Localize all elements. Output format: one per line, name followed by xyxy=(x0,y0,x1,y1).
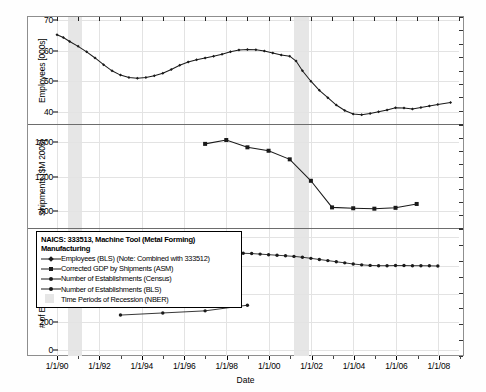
legend-title-line2: Manufacturing xyxy=(41,244,237,253)
legend-entry-2: Number of Establishments (Census) xyxy=(41,274,237,284)
x-tick-label-1/1/06: 1/1/06 xyxy=(385,361,407,371)
y-minor-tick-right-establishments-0 xyxy=(459,229,463,230)
x-tick-mark-1992 xyxy=(99,356,100,360)
legend-marker-dot-icon xyxy=(41,284,61,294)
y-minor-tick-right-employees-5 xyxy=(459,84,463,85)
legend-label-0: Employees (BLS) (Note: Combined with 333… xyxy=(61,254,210,263)
y-minor-tick-right-shipments-7 xyxy=(459,215,463,216)
plot-area-employees: 40506070 xyxy=(57,17,459,124)
top-edge-tick-1996 xyxy=(184,17,185,21)
x-tick-mark-2001 xyxy=(290,356,291,359)
top-edge-tick-2001 xyxy=(290,17,291,21)
y-minor-tick-right-shipments-0 xyxy=(459,125,463,126)
y-minor-tick-right-establishments-1 xyxy=(459,245,463,246)
series-markers-employees-0 xyxy=(56,33,453,116)
legend-label-3: Number of Establishments (BLS) xyxy=(61,285,161,294)
legend-marker-swatch-icon xyxy=(41,294,61,304)
x-tick-mark-1996 xyxy=(184,356,185,360)
top-edge-tick-1997 xyxy=(205,17,206,21)
x-tick-mark-2006 xyxy=(396,356,397,360)
y-tick-mark-shipments-1600 xyxy=(53,142,58,143)
x-axis: Date 1/1/901/1/921/1/941/1/961/1/981/1/0… xyxy=(27,356,464,390)
y-tick-mark-employees-50 xyxy=(53,81,58,82)
recession-swatch-icon xyxy=(45,294,54,303)
chart-legend: NAICS: 333513, Machine Tool (Metal Formi… xyxy=(36,231,242,308)
chart-figure: 40506070 Employees [000s] 80012001600 Sh… xyxy=(0,0,486,392)
top-edge-tick-2009 xyxy=(459,17,460,21)
x-tick-mark-1998 xyxy=(227,356,228,360)
x-tick-mark-1994 xyxy=(142,356,143,360)
x-tick-mark-1999 xyxy=(248,356,249,359)
legend-label-4: Time Periods of Recession (NBER) xyxy=(61,295,169,304)
series-markers-shipments-0 xyxy=(203,138,419,211)
top-edge-tick-1998 xyxy=(226,17,227,21)
series-line-shipments-0 xyxy=(205,140,417,209)
x-tick-label-1/1/90: 1/1/90 xyxy=(46,361,68,371)
employees-series-svg xyxy=(57,17,459,124)
x-tick-mark-2004 xyxy=(354,356,355,360)
x-tick-label-1/1/92: 1/1/92 xyxy=(88,361,110,371)
y-minor-tick-right-shipments-1 xyxy=(459,138,463,139)
panel-shipments: 80012001600 Shipments [$M 2005] xyxy=(28,125,463,229)
legend-marker-diamond-icon xyxy=(41,254,61,264)
top-edge-tick-2004 xyxy=(353,17,354,21)
legend-glyph xyxy=(48,256,54,262)
x-tick-label-1/1/02: 1/1/02 xyxy=(300,361,322,371)
x-tick-mark-2002 xyxy=(312,356,313,360)
x-tick-mark-2003 xyxy=(333,356,334,359)
y-minor-tick-right-employees-4 xyxy=(459,71,463,72)
x-tick-label-1/1/00: 1/1/00 xyxy=(258,361,280,371)
y-tick-mark-shipments-800 xyxy=(53,210,58,211)
y-minor-tick-right-employees-1 xyxy=(459,30,463,31)
top-edge-tick-2007 xyxy=(417,17,418,21)
y-minor-tick-right-shipments-4 xyxy=(459,177,463,178)
x-tick-mark-1993 xyxy=(121,356,122,359)
top-edge-tick-1999 xyxy=(247,17,248,21)
legend-entry-4: Time Periods of Recession (NBER) xyxy=(41,294,237,304)
y-tick-mark-establishments-200 xyxy=(53,322,58,323)
y-minor-tick-right-shipments-5 xyxy=(459,189,463,190)
top-edge-tick-1991 xyxy=(78,17,79,21)
x-axis-title: Date xyxy=(237,375,255,385)
top-edge-tick-1995 xyxy=(163,17,164,21)
x-tick-label-1/1/04: 1/1/04 xyxy=(343,361,365,371)
legend-glyph xyxy=(49,277,53,281)
y-tick-mark-establishments-0 xyxy=(53,350,58,351)
panel-employees: 40506070 Employees [000s] xyxy=(28,17,463,125)
x-tick-label-1/1/08: 1/1/08 xyxy=(428,361,450,371)
legend-entry-0: Employees (BLS) (Note: Combined with 333… xyxy=(41,253,237,263)
y-minor-tick-right-shipments-2 xyxy=(459,151,463,152)
y-minor-tick-right-establishments-3 xyxy=(459,277,463,278)
legend-entry-3: Number of Establishments (BLS) xyxy=(41,284,237,294)
x-tick-mark-1991 xyxy=(78,356,79,359)
legend-glyph xyxy=(49,287,53,291)
legend-marker-square-icon xyxy=(41,264,61,274)
y-minor-tick-right-employees-7 xyxy=(459,111,463,112)
top-edge-tick-2005 xyxy=(374,17,375,21)
legend-entry-1: Corrected GDP by Shipments (ASM) xyxy=(41,264,237,274)
x-tick-mark-1997 xyxy=(205,356,206,359)
y-minor-tick-right-shipments-6 xyxy=(459,202,463,203)
y-minor-tick-right-establishments-6 xyxy=(459,324,463,325)
top-edge-tick-1990 xyxy=(57,17,58,21)
series-line-employees-0 xyxy=(57,35,451,115)
x-tick-mark-2005 xyxy=(375,356,376,359)
top-edge-tick-1994 xyxy=(142,17,143,21)
legend-title-line1: NAICS: 333513, Machine Tool (Metal Formi… xyxy=(41,235,237,244)
y-minor-tick-right-establishments-2 xyxy=(459,261,463,262)
x-tick-label-1/1/94: 1/1/94 xyxy=(131,361,153,371)
top-edge-tick-1992 xyxy=(99,17,100,21)
top-edge-tick-2000 xyxy=(269,17,270,21)
legend-glyph xyxy=(49,267,53,271)
x-tick-mark-2000 xyxy=(269,356,270,360)
legend-entries: Employees (BLS) (Note: Combined with 333… xyxy=(41,253,237,304)
legend-label-1: Corrected GDP by Shipments (ASM) xyxy=(61,264,173,273)
x-tick-label-1/1/98: 1/1/98 xyxy=(215,361,237,371)
legend-marker-dot-icon xyxy=(41,274,61,284)
y-axis-title-employees: Employees [000s] xyxy=(37,39,47,103)
x-tick-mark-2009 xyxy=(460,356,461,359)
y-minor-tick-right-shipments-3 xyxy=(459,164,463,165)
top-edge-tick-2008 xyxy=(438,17,439,21)
y-minor-tick-right-employees-3 xyxy=(459,57,463,58)
legend-label-2: Number of Establishments (Census) xyxy=(61,274,171,283)
